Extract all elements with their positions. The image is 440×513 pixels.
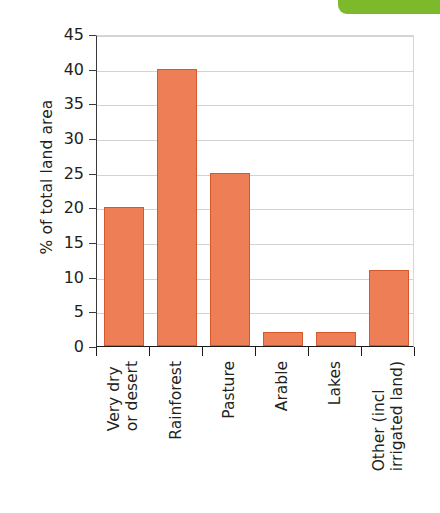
x-tick-mark: [361, 347, 362, 356]
x-tick-label-line: Lakes: [326, 361, 344, 405]
y-tick-label: 25: [40, 166, 84, 182]
plot-area: [96, 35, 414, 347]
x-tick-label-line: Very dry: [105, 361, 123, 431]
x-tick-mark: [96, 347, 97, 356]
gridline: [97, 105, 413, 106]
gridline: [97, 244, 413, 245]
x-tick-label: Very dryor desert: [105, 361, 142, 431]
x-tick-label: Rainforest: [167, 361, 185, 440]
x-tick-label: Arable: [273, 361, 291, 411]
y-tick-label: 10: [40, 270, 84, 286]
y-tick-label: 15: [40, 235, 84, 251]
x-tick-mark: [149, 347, 150, 356]
x-tick-label-line: Pasture: [220, 361, 238, 419]
x-tick-mark: [202, 347, 203, 356]
x-tick-label-line: Arable: [273, 361, 291, 411]
x-tick-label-line: irrigated land): [388, 361, 406, 471]
x-tick-label-line: Other (incl: [370, 361, 388, 471]
y-tick-label: 40: [40, 62, 84, 78]
gridline: [97, 71, 413, 72]
bar[interactable]: [210, 173, 250, 346]
x-tick-label: Other (inclirrigated land): [370, 361, 407, 471]
bar[interactable]: [316, 332, 356, 346]
x-tick-label-line: Rainforest: [167, 361, 185, 440]
y-tick-label: 5: [40, 304, 84, 320]
y-tick-label: 0: [40, 339, 84, 355]
gridline: [97, 313, 413, 314]
y-tick-label: 30: [40, 131, 84, 147]
bar[interactable]: [263, 332, 303, 346]
gridline: [97, 36, 413, 37]
x-tick-label: Pasture: [220, 361, 238, 419]
bar[interactable]: [104, 207, 144, 346]
y-tick-label: 35: [40, 96, 84, 112]
gridline: [97, 140, 413, 141]
x-tick-label: Lakes: [326, 361, 344, 405]
bar[interactable]: [369, 270, 409, 346]
x-tick-mark: [255, 347, 256, 356]
gridline: [97, 209, 413, 210]
gridline: [97, 279, 413, 280]
y-tick-label: 45: [40, 27, 84, 43]
x-tick-label-line: or desert: [123, 361, 141, 431]
y-tick-label: 20: [40, 200, 84, 216]
x-tick-mark: [308, 347, 309, 356]
x-tick-mark: [414, 347, 415, 356]
bar-chart-figure: % of total land area 051015202530354045 …: [0, 0, 440, 513]
gridline: [97, 175, 413, 176]
bar[interactable]: [157, 69, 197, 346]
